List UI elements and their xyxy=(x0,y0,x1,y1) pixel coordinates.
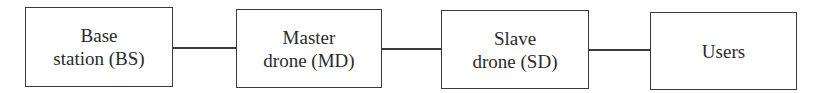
edge-md-sd xyxy=(382,48,441,50)
node-label-line1: Slave xyxy=(473,27,558,50)
node-slave-drone: Slave drone (SD) xyxy=(441,10,589,89)
node-users: Users xyxy=(650,12,797,90)
node-label-line1: Master xyxy=(263,26,354,49)
node-label-line2: station (BS) xyxy=(53,47,144,70)
edge-bs-md xyxy=(173,47,236,49)
node-master-drone: Master drone (MD) xyxy=(236,9,382,88)
node-base-station: Base station (BS) xyxy=(25,7,173,87)
edge-sd-users xyxy=(589,49,650,51)
node-label-line2: drone (MD) xyxy=(263,49,354,72)
node-label-line2: drone (SD) xyxy=(473,50,558,73)
node-label-line1: Users xyxy=(702,40,745,63)
node-label-line1: Base xyxy=(53,24,144,47)
